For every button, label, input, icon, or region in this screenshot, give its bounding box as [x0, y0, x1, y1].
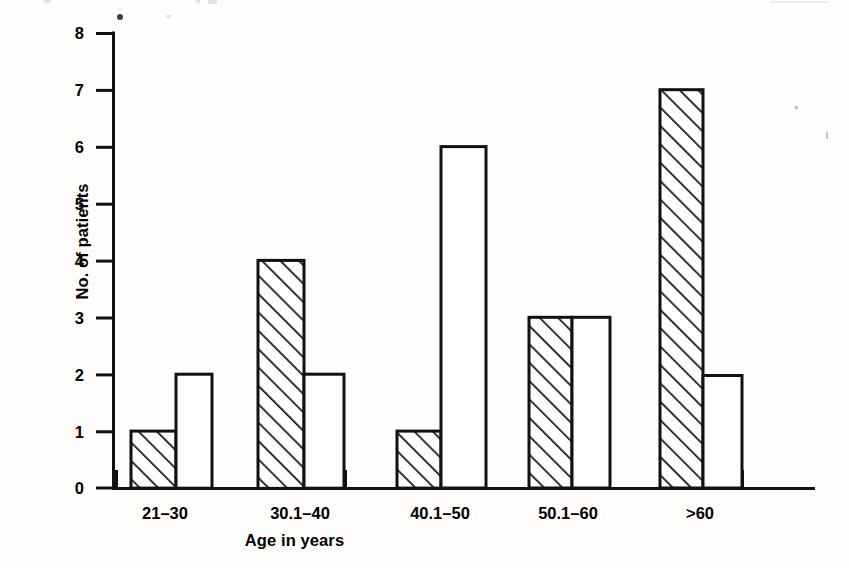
- y-axis-ticks: [96, 34, 113, 489]
- y-tick-label: 8: [44, 25, 84, 42]
- y-axis-title: No. of patients: [73, 142, 92, 342]
- bar-open: [441, 147, 486, 488]
- bar-hatched: [397, 431, 441, 488]
- x-tick-label-30-1-40: 30.1–40: [240, 505, 360, 522]
- x-tick-label-over-60: >60: [650, 505, 750, 522]
- y-tick-label: 0: [44, 480, 84, 497]
- x-tick-label-40-1-50: 40.1–50: [380, 505, 500, 522]
- bar-group-30-1-40: [258, 260, 344, 488]
- bar-hatched: [660, 90, 703, 488]
- bar-group-over-60: [660, 90, 742, 488]
- figure-canvas: 8 7 6 5 4 3 2 1 0 21–30 30.1–40 40.1–50 …: [0, 0, 849, 568]
- bar-hatched: [131, 431, 176, 488]
- x-tick-label-21-30: 21–30: [110, 505, 220, 522]
- bar-open: [572, 317, 610, 488]
- bar-group-50-1-60: [529, 317, 610, 488]
- y-tick-label: 7: [44, 82, 84, 99]
- bar-chart-plot: [0, 0, 849, 568]
- bar-open: [176, 374, 212, 488]
- bar-group-40-1-50: [397, 147, 486, 489]
- x-tick-label-50-1-60: 50.1–60: [508, 505, 628, 522]
- y-tick-label: 2: [44, 367, 84, 384]
- bar-open: [304, 374, 344, 488]
- x-axis-title: Age in years: [0, 531, 719, 550]
- bar-open: [703, 376, 742, 489]
- bar-hatched: [258, 260, 304, 488]
- bar-hatched: [529, 317, 572, 488]
- bar-group-21-30: [131, 374, 212, 488]
- y-tick-label: 1: [44, 424, 84, 441]
